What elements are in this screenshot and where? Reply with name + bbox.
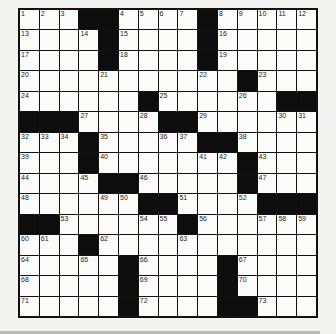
grid-cell[interactable]: 63 <box>178 235 197 254</box>
grid-cell[interactable]: 57 <box>258 215 277 234</box>
grid-cell[interactable] <box>218 235 237 254</box>
grid-cell[interactable]: 37 <box>178 133 197 152</box>
grid-cell[interactable] <box>218 174 237 193</box>
grid-cell[interactable] <box>258 276 277 295</box>
grid-cell[interactable] <box>79 297 98 316</box>
grid-cell[interactable] <box>297 276 316 295</box>
grid-cell[interactable]: 23 <box>258 71 277 90</box>
grid-cell[interactable] <box>99 276 118 295</box>
grid-cell[interactable]: 18 <box>119 51 138 70</box>
grid-cell[interactable]: 60 <box>20 235 39 254</box>
grid-cell[interactable] <box>178 92 197 111</box>
grid-cell[interactable] <box>79 92 98 111</box>
grid-cell[interactable] <box>297 297 316 316</box>
grid-cell[interactable]: 2 <box>40 10 59 29</box>
grid-cell[interactable] <box>218 112 237 131</box>
grid-cell[interactable] <box>277 174 296 193</box>
grid-cell[interactable]: 45 <box>79 174 98 193</box>
grid-cell[interactable] <box>159 235 178 254</box>
grid-cell[interactable]: 28 <box>139 112 158 131</box>
grid-cell[interactable] <box>238 235 257 254</box>
grid-cell[interactable] <box>40 153 59 172</box>
grid-cell[interactable] <box>258 235 277 254</box>
grid-cell[interactable] <box>139 51 158 70</box>
grid-cell[interactable] <box>60 297 79 316</box>
grid-cell[interactable] <box>159 276 178 295</box>
grid-cell[interactable]: 3 <box>60 10 79 29</box>
grid-cell[interactable] <box>79 215 98 234</box>
grid-cell[interactable] <box>297 30 316 49</box>
grid-cell[interactable] <box>159 71 178 90</box>
grid-cell[interactable]: 39 <box>20 153 39 172</box>
grid-cell[interactable] <box>277 30 296 49</box>
grid-cell[interactable]: 16 <box>218 30 237 49</box>
grid-cell[interactable]: 15 <box>119 30 138 49</box>
grid-cell[interactable] <box>218 92 237 111</box>
grid-cell[interactable] <box>99 112 118 131</box>
grid-cell[interactable]: 71 <box>20 297 39 316</box>
grid-cell[interactable] <box>79 71 98 90</box>
grid-cell[interactable]: 14 <box>79 30 98 49</box>
grid-cell[interactable] <box>159 256 178 275</box>
grid-cell[interactable] <box>218 215 237 234</box>
grid-cell[interactable] <box>238 51 257 70</box>
grid-cell[interactable] <box>40 276 59 295</box>
grid-cell[interactable]: 42 <box>218 153 237 172</box>
grid-cell[interactable] <box>178 30 197 49</box>
grid-cell[interactable]: 30 <box>277 112 296 131</box>
grid-cell[interactable]: 5 <box>139 10 158 29</box>
grid-cell[interactable]: 73 <box>258 297 277 316</box>
grid-cell[interactable] <box>159 153 178 172</box>
grid-cell[interactable] <box>40 30 59 49</box>
grid-cell[interactable]: 31 <box>297 112 316 131</box>
grid-cell[interactable]: 59 <box>297 215 316 234</box>
grid-cell[interactable] <box>99 215 118 234</box>
grid-cell[interactable] <box>79 51 98 70</box>
grid-cell[interactable] <box>60 235 79 254</box>
grid-cell[interactable] <box>139 30 158 49</box>
grid-cell[interactable] <box>258 133 277 152</box>
grid-cell[interactable]: 48 <box>20 194 39 213</box>
grid-cell[interactable]: 38 <box>238 133 257 152</box>
grid-cell[interactable] <box>40 71 59 90</box>
grid-cell[interactable] <box>60 92 79 111</box>
grid-cell[interactable] <box>60 71 79 90</box>
grid-cell[interactable]: 17 <box>20 51 39 70</box>
grid-cell[interactable]: 6 <box>159 10 178 29</box>
grid-cell[interactable] <box>159 51 178 70</box>
grid-cell[interactable] <box>277 276 296 295</box>
grid-cell[interactable] <box>198 297 217 316</box>
grid-cell[interactable] <box>258 51 277 70</box>
grid-cell[interactable]: 46 <box>139 174 158 193</box>
grid-cell[interactable]: 13 <box>20 30 39 49</box>
grid-cell[interactable] <box>198 174 217 193</box>
grid-cell[interactable]: 22 <box>198 71 217 90</box>
grid-cell[interactable] <box>297 133 316 152</box>
grid-cell[interactable]: 55 <box>159 215 178 234</box>
grid-cell[interactable] <box>297 235 316 254</box>
grid-cell[interactable] <box>277 297 296 316</box>
grid-cell[interactable] <box>198 92 217 111</box>
grid-cell[interactable]: 8 <box>218 10 237 29</box>
grid-cell[interactable] <box>119 112 138 131</box>
grid-cell[interactable]: 26 <box>238 92 257 111</box>
grid-cell[interactable]: 25 <box>159 92 178 111</box>
grid-cell[interactable] <box>178 71 197 90</box>
grid-cell[interactable] <box>238 112 257 131</box>
grid-cell[interactable] <box>60 153 79 172</box>
grid-cell[interactable]: 12 <box>297 10 316 29</box>
grid-cell[interactable] <box>238 215 257 234</box>
grid-cell[interactable]: 43 <box>258 153 277 172</box>
grid-cell[interactable] <box>139 71 158 90</box>
grid-cell[interactable]: 35 <box>99 133 118 152</box>
grid-cell[interactable]: 66 <box>139 256 158 275</box>
grid-cell[interactable]: 20 <box>20 71 39 90</box>
grid-cell[interactable]: 40 <box>99 153 118 172</box>
grid-cell[interactable] <box>60 276 79 295</box>
grid-cell[interactable] <box>139 153 158 172</box>
grid-cell[interactable] <box>258 112 277 131</box>
grid-cell[interactable] <box>119 235 138 254</box>
grid-cell[interactable] <box>277 133 296 152</box>
grid-cell[interactable] <box>99 92 118 111</box>
grid-cell[interactable]: 58 <box>277 215 296 234</box>
